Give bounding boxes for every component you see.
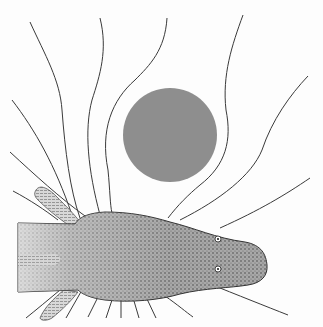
field-line (147, 299, 156, 318)
illustration-canvas (0, 0, 323, 327)
lower-pectoral-fin (40, 290, 78, 320)
spherical-object (123, 88, 217, 182)
field-line (88, 18, 103, 215)
eye-lower (215, 266, 221, 272)
eye-upper (215, 236, 221, 242)
lateral-stripe (18, 254, 60, 266)
field-line (106, 300, 112, 318)
field-line (88, 297, 98, 317)
field-line (165, 296, 193, 317)
field-line (134, 301, 139, 318)
field-diagram (0, 0, 323, 327)
